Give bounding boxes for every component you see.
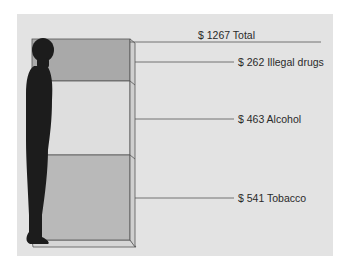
label-tobacco: $ 541 Tobacco [238,192,306,204]
side-face [130,39,135,247]
label-alcohol: $ 463 Alcohol [238,113,301,125]
stacked-bar-figure [0,0,348,275]
label-total: $ 1267 Total [198,29,255,41]
label-illegal-drugs: $ 262 Illegal drugs [238,56,324,68]
